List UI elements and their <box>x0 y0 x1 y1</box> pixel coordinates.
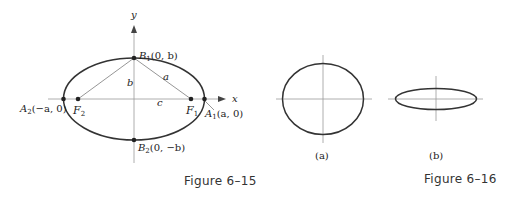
label-a2: A2(−a, 0) <box>19 103 67 116</box>
point-f2 <box>76 97 81 102</box>
label-segment-a: a <box>163 71 169 82</box>
caption-figure-6-16: Figure 6–16 <box>424 172 497 186</box>
caption-figure-6-15: Figure 6–15 <box>184 174 257 188</box>
point-b2 <box>132 138 137 143</box>
label-segment-c: c <box>157 97 163 108</box>
point-f1 <box>189 97 194 102</box>
y-axis-label: y <box>130 9 137 20</box>
figure-6-16: (a) (b) Figure 6–16 <box>276 55 497 186</box>
label-a1: A1(a, 0) <box>204 108 243 121</box>
figure-canvas: x y B1(0, b) B2(0, −b) A2(−a, 0) <box>0 0 506 197</box>
panel-a: (a) <box>276 55 372 161</box>
segment-b1-f2 <box>78 58 134 99</box>
point-b1 <box>132 56 137 61</box>
panel-b-label: (b) <box>429 150 443 161</box>
x-axis-arrow-icon <box>218 96 226 102</box>
point-a1 <box>202 97 207 102</box>
label-f1: F1 <box>185 104 198 118</box>
label-segment-b: b <box>127 77 133 88</box>
panel-b: (b) <box>388 76 483 161</box>
panel-a-label: (a) <box>315 150 329 161</box>
point-a2 <box>61 97 66 102</box>
x-axis-label: x <box>232 93 238 104</box>
label-b2: B2(0, −b) <box>137 142 185 155</box>
figure-6-15: x y B1(0, b) B2(0, −b) A2(−a, 0) <box>19 9 257 188</box>
label-f2: F2 <box>72 104 85 118</box>
y-axis-arrow-icon <box>131 25 137 33</box>
